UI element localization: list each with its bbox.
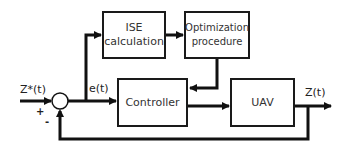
summing-junction [52, 93, 68, 109]
ise-calculation-block: ISE calculation [102, 11, 166, 59]
controller-block-label: Controller [125, 96, 179, 110]
minus-sign: - [45, 117, 49, 127]
optimization-procedure-block: Optimization procedure [184, 11, 250, 59]
reference-signal-label: Z*(t) [20, 84, 46, 96]
optimization-to-controller-line [190, 59, 217, 88]
uav-block: UAV [230, 78, 295, 127]
ise-block-label-line1: ISE [104, 21, 164, 35]
plus-sign: + [36, 107, 44, 117]
uav-block-label: UAV [251, 96, 273, 110]
error-signal-label: e(t) [89, 83, 109, 95]
output-signal-label: Z(t) [305, 87, 325, 99]
optimization-block-label-line1: Optimization [185, 21, 249, 35]
optimization-block-label-line2: procedure [185, 35, 249, 49]
controller-block: Controller [117, 78, 188, 127]
control-block-diagram: ISE calculation Optimization procedure C… [0, 0, 348, 149]
ise-block-label-line2: calculation [104, 35, 164, 49]
